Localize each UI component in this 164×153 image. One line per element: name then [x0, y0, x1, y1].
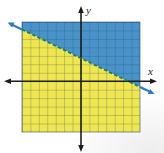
- boundary-right-extension: [140, 87, 149, 92]
- figure-canvas: x y: [0, 0, 164, 153]
- x-axis-label: x: [147, 65, 153, 77]
- x-axis-right-arrow-icon: [150, 78, 157, 84]
- y-axis-top-arrow-icon: [78, 6, 84, 13]
- boundary-left-extension: [13, 25, 22, 30]
- y-axis-label: y: [85, 4, 91, 16]
- y-axis-bottom-arrow-icon: [78, 145, 84, 152]
- x-axis-left-arrow-icon: [4, 78, 11, 84]
- inequality-graph: x y: [0, 0, 164, 153]
